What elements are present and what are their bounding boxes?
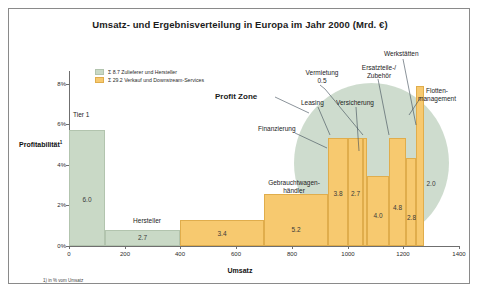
y-tick-0: 0% bbox=[52, 243, 66, 249]
bar-tier1[interactable]: 6.0 bbox=[69, 130, 105, 246]
y-tick-6: 6% bbox=[52, 121, 66, 127]
bar-flottenmanagement[interactable]: 2.8 bbox=[406, 158, 416, 246]
y-tick-8: 8% bbox=[52, 81, 66, 87]
chart-frame: Umsatz- und Ergebnisverteilung in Europa… bbox=[8, 8, 470, 284]
x-tick-400: 400 bbox=[165, 251, 195, 257]
x-axis-label: Umsatz bbox=[9, 267, 471, 274]
bar-versicherung[interactable]: 4.0 bbox=[367, 176, 389, 246]
label-finanzierung: Finanzierung bbox=[258, 125, 296, 133]
y-axis-label: Profitabilität1 bbox=[19, 140, 62, 148]
x-tick-1000: 1000 bbox=[333, 251, 363, 257]
bar-gebrauchtwagenhaendler[interactable]: 5.2 bbox=[264, 194, 328, 246]
label-tier1: Tier 1 bbox=[73, 111, 89, 119]
chart-title: Umsatz- und Ergebnisverteilung in Europa… bbox=[9, 19, 471, 30]
label-hersteller: Hersteller bbox=[117, 217, 177, 225]
bar-leasing[interactable]: 2.7 bbox=[348, 138, 363, 246]
bar-werkstaetten[interactable]: 2.0 bbox=[416, 86, 424, 246]
label-vermietung: Vermietung 0.5 bbox=[298, 69, 346, 84]
x-tick-0: 0 bbox=[54, 251, 84, 257]
label-leasing: Leasing bbox=[301, 99, 324, 107]
y-tick-2: 2% bbox=[52, 202, 66, 208]
label-gebrauchtwagenhaendler: Gebrauchtwagen- händler bbox=[254, 179, 334, 194]
y-tick-4: 4% bbox=[52, 162, 66, 168]
x-tick-1400: 1400 bbox=[444, 251, 474, 257]
x-axis-line bbox=[69, 246, 459, 247]
bar-hersteller[interactable]: 2.7 bbox=[105, 230, 180, 246]
x-tick-600: 600 bbox=[221, 251, 251, 257]
label-ersatzteile-zubehoer: Ersatzteile-/ Zubehör bbox=[353, 64, 405, 79]
label-werkstaetten: Werkstätten bbox=[384, 50, 419, 58]
label-versicherung: Versicherung bbox=[336, 99, 374, 107]
bar-neuwagenhaendler[interactable]: 3.4 bbox=[180, 220, 264, 246]
x-tick-1200: 1200 bbox=[388, 251, 418, 257]
label-flottenmanagement: Flotten- management bbox=[409, 87, 465, 102]
chart-footnote: 1) in % vom Umsatz bbox=[43, 278, 83, 283]
bar-ersatzteile-zubehoer[interactable]: 4.8 bbox=[389, 138, 406, 246]
x-tick-800: 800 bbox=[277, 251, 307, 257]
profit-zone-annotation: Profit Zone bbox=[215, 93, 257, 101]
x-tick-200: 200 bbox=[110, 251, 140, 257]
